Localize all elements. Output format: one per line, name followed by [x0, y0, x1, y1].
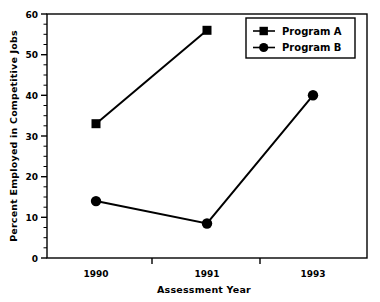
- line-chart: 60 50 40 30 20 10 0 1990 1991 1993 Asses…: [0, 0, 380, 302]
- chart-container: 60 50 40 30 20 10 0 1990 1991 1993 Asses…: [0, 0, 380, 302]
- series-a-point-1991: [203, 26, 212, 35]
- x-axis-label-1993: 1993: [300, 269, 325, 279]
- x-axis-label-1991: 1991: [194, 269, 219, 279]
- series-b-point-1990: [91, 196, 101, 206]
- legend-marker-square-icon: [260, 27, 268, 35]
- y-axis-title: Percent Employed in Competitive Jobs: [8, 30, 19, 242]
- y-axis-label-60: 60: [25, 10, 38, 20]
- series-b-point-1993: [308, 90, 318, 100]
- y-axis-ticks: [41, 14, 47, 258]
- legend-marker-circle-icon: [259, 43, 268, 52]
- y-axis-label-10: 10: [25, 213, 38, 223]
- series-a-point-1990: [92, 119, 101, 128]
- x-axis-ticks: [152, 258, 260, 264]
- legend-entry-program-a: Program A: [253, 26, 342, 37]
- y-axis-label-0: 0: [32, 254, 38, 264]
- y-axis-label-40: 40: [25, 91, 38, 101]
- legend: Program A Program B: [246, 18, 355, 58]
- legend-label-a: Program A: [282, 26, 342, 37]
- x-axis-label-1990: 1990: [83, 269, 108, 279]
- y-axis-label-50: 50: [25, 50, 38, 60]
- series-b-point-1991: [202, 218, 212, 228]
- y-axis-label-20: 20: [25, 172, 38, 182]
- legend-label-b: Program B: [282, 42, 342, 53]
- x-axis-title: Assessment Year: [157, 284, 251, 295]
- y-axis-label-30: 30: [25, 132, 38, 142]
